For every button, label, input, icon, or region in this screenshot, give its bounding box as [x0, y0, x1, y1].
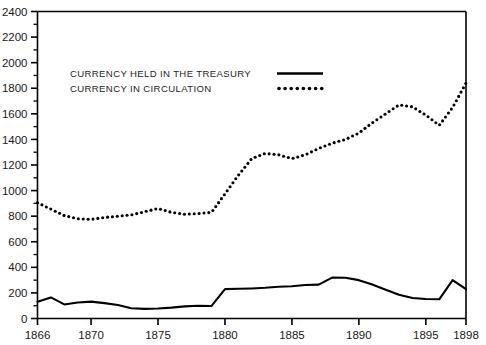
series-dot [455, 99, 458, 102]
series-dot [438, 123, 441, 126]
legend-swatch-dot [296, 87, 300, 91]
series-dot [54, 210, 57, 213]
legend-item: CURRENCY HELD IN THE TREASURY [70, 68, 323, 79]
series-dot [67, 215, 70, 218]
series-dot [333, 141, 336, 144]
series-dot [328, 143, 331, 146]
series-dot [168, 210, 171, 213]
chart-axes [38, 12, 467, 319]
series-dot [423, 112, 426, 115]
series-dot [305, 152, 308, 155]
chart-ticks [31, 12, 466, 326]
series-dot [36, 201, 39, 204]
series-dot [392, 107, 395, 110]
series-dot [130, 213, 133, 216]
series-dot [277, 153, 280, 156]
series-dot [319, 146, 322, 149]
series-dot [183, 213, 186, 216]
series-dot [460, 91, 463, 94]
legend-swatch-dot [314, 87, 318, 91]
series-dot [396, 105, 399, 108]
legend-label: CURRENCY IN CIRCULATION [70, 83, 212, 94]
series-dot [337, 140, 340, 143]
y-axis-tick-label: 1600 [2, 108, 28, 120]
series-dot [246, 162, 249, 165]
series-dot [291, 157, 294, 160]
series-dot [116, 215, 119, 218]
series-dot [193, 212, 196, 215]
series-dot [464, 82, 467, 85]
series-dot [140, 211, 143, 214]
series-dot [430, 118, 433, 121]
series-dot [159, 208, 162, 211]
series-dot [272, 153, 275, 156]
legend-item: CURRENCY IN CIRCULATION [70, 83, 324, 94]
series-dot [287, 156, 290, 159]
series-dot [202, 212, 205, 215]
series-dot [111, 215, 114, 218]
series-dot [77, 217, 80, 220]
y-axis-tick-label: 2200 [2, 31, 28, 43]
x-axis-tick-label: 1866 [25, 329, 51, 341]
series-dot [314, 148, 317, 151]
series-dot [40, 203, 43, 206]
series-dot [418, 110, 421, 113]
series-dot [217, 201, 220, 204]
chart-series [36, 82, 467, 309]
series-dot [226, 189, 229, 192]
x-axis-tick-label: 1890 [346, 329, 372, 341]
y-axis-tick-label: 400 [8, 261, 27, 273]
series-dot [258, 154, 261, 157]
series-circulation [36, 82, 467, 221]
legend-label: CURRENCY HELD IN THE TREASURY [70, 68, 251, 79]
y-axis-tick-labels: 0200400600800100012001400160018002000220… [2, 6, 28, 325]
series-dot [82, 217, 85, 220]
series-dot [323, 144, 326, 147]
series-line-solid [38, 278, 467, 309]
series-dot [214, 205, 217, 208]
series-dot [450, 108, 453, 111]
series-dot [351, 135, 354, 138]
series-dot [72, 216, 75, 219]
x-axis-tick-label: 1885 [279, 329, 305, 341]
series-dot [347, 137, 350, 140]
legend-swatch-dot [320, 87, 324, 91]
series-dot [367, 124, 370, 127]
series-dot [457, 95, 460, 98]
series-dot [441, 119, 444, 122]
series-dot [91, 218, 94, 221]
series-dot [383, 113, 386, 116]
series-dot [49, 208, 52, 211]
legend-swatch-dot [283, 87, 287, 91]
series-dot [101, 216, 104, 219]
series-dot [211, 209, 214, 212]
series-dot [400, 104, 403, 107]
series-dot [282, 155, 285, 158]
series-dot [96, 217, 99, 220]
series-dot [188, 212, 191, 215]
currency-line-chart: 0200400600800100012001400160018002000220… [0, 0, 486, 345]
y-axis-tick-label: 800 [8, 210, 27, 222]
series-dot [173, 211, 176, 214]
series-dot [249, 158, 252, 161]
series-dot [154, 207, 157, 210]
y-axis-tick-label: 2400 [2, 6, 28, 18]
series-dot [388, 110, 391, 113]
series-dot [87, 218, 90, 221]
series-dot [379, 115, 382, 118]
series-dot [254, 156, 257, 159]
x-axis-tick-label: 1870 [78, 329, 104, 341]
series-dot [310, 150, 313, 153]
series-dot [371, 121, 374, 124]
series-dot [444, 115, 447, 118]
series-dot [126, 214, 129, 217]
y-axis-tick-label: 600 [8, 236, 27, 248]
series-dot [363, 127, 366, 130]
series-dot [121, 214, 124, 217]
x-axis-tick-label: 1875 [145, 329, 171, 341]
series-dot [342, 138, 345, 141]
series-dot [58, 212, 61, 215]
legend-swatch-dot [277, 87, 281, 91]
y-axis-tick-label: 1400 [2, 134, 28, 146]
legend-swatch-dot [308, 87, 312, 91]
